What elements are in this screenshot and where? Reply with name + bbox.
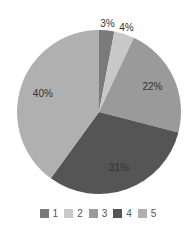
legend-label: 3 (102, 208, 108, 219)
legend: 1 2 3 4 5 (0, 208, 196, 219)
legend-swatch (40, 209, 49, 218)
legend-item-2: 2 (64, 208, 83, 219)
slice-label: 22% (142, 81, 162, 92)
slice-label: 4% (119, 22, 134, 33)
legend-swatch (64, 209, 73, 218)
legend-swatch (113, 209, 122, 218)
legend-item-1: 1 (40, 208, 59, 219)
legend-label: 4 (126, 208, 132, 219)
slice-label: 3% (100, 18, 115, 29)
legend-item-4: 4 (113, 208, 132, 219)
legend-label: 5 (151, 208, 157, 219)
legend-label: 2 (77, 208, 83, 219)
legend-swatch (138, 209, 147, 218)
legend-item-5: 5 (138, 208, 157, 219)
legend-swatch (89, 209, 98, 218)
legend-item-3: 3 (89, 208, 108, 219)
slice-label: 40% (33, 88, 53, 99)
slice-label: 31% (109, 162, 129, 173)
legend-label: 1 (53, 208, 59, 219)
